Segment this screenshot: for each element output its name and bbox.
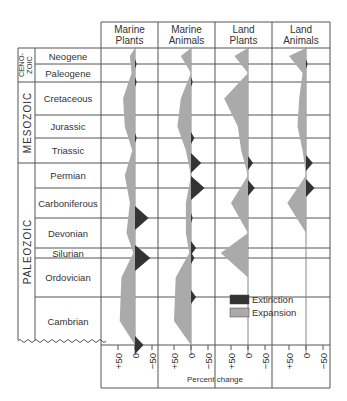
column-header: Marine [114, 24, 145, 35]
column-header: Animals [283, 35, 319, 46]
expansion-area [120, 48, 135, 345]
period-label: Jurassic [51, 121, 86, 132]
era-label: PALEOZOIC [22, 219, 33, 285]
column-header: Land [290, 24, 312, 35]
column-header: Land [232, 24, 254, 35]
x-axis-label: Percent change [187, 375, 244, 384]
chart-labels: MarinePlantsMarineAnimalsLandPlantsLandA… [17, 24, 329, 384]
extinction-spike [306, 59, 308, 69]
extinction-spike [306, 155, 313, 171]
expansion-area [174, 48, 191, 345]
extinction-spike [135, 133, 137, 143]
period-label: Devonian [48, 228, 88, 239]
tick-label: −50 [260, 353, 271, 369]
extinction-spike [191, 77, 193, 87]
period-label: Silurian [52, 248, 84, 259]
tick-label: +50 [284, 353, 295, 369]
tick-label: 0 [243, 353, 254, 358]
tick-label: +50 [226, 353, 237, 369]
tick-label: −50 [318, 353, 329, 369]
legend-label-extinction: Extinction [252, 294, 293, 305]
extinction-spike [191, 290, 196, 304]
legend-swatch-expansion [230, 308, 249, 317]
extinction-spike [135, 206, 149, 230]
evolution-chart: MarinePlantsMarineAnimalsLandPlantsLandA… [0, 0, 347, 401]
period-label: Cambrian [47, 316, 88, 327]
extinction-spike [135, 336, 144, 354]
column-header: Plants [116, 35, 144, 46]
legend-label-expansion: Expansion [252, 307, 296, 318]
extinction-spike [191, 213, 193, 223]
column-header: Animals [169, 35, 205, 46]
period-label: Triassic [52, 145, 85, 156]
tick-label: 0 [301, 353, 312, 358]
extinction-spike [248, 156, 253, 170]
extinction-spike [135, 245, 150, 271]
era-label: MESOZOIC [22, 92, 33, 153]
extinction-spike [306, 179, 315, 197]
extinction-spike [191, 132, 194, 144]
era-label: ZOIC [25, 55, 34, 73]
period-label: Carboniferous [38, 198, 98, 209]
extinction-spike [191, 252, 194, 264]
tick-label: −50 [147, 353, 158, 369]
period-label: Ordovician [45, 272, 90, 283]
period-label: Paleogene [45, 68, 90, 79]
extinction-spike [135, 59, 137, 69]
tick-label: 0 [186, 353, 197, 358]
extinction-spike [248, 180, 255, 196]
period-label: Permian [50, 170, 85, 181]
extinction-spike [191, 176, 205, 200]
column-header: Marine [171, 24, 202, 35]
column-header: Plants [230, 35, 258, 46]
tick-label: +50 [113, 353, 124, 369]
period-label: Cretaceous [44, 93, 93, 104]
period-label: Neogene [49, 51, 88, 62]
extinction-spike [191, 241, 196, 255]
tick-label: −50 [203, 353, 214, 369]
extinction-spike [135, 77, 137, 87]
extinction-spike [191, 153, 201, 173]
legend-swatch-extinction [230, 295, 249, 304]
tick-label: 0 [130, 353, 141, 358]
tick-label: +50 [169, 353, 180, 369]
